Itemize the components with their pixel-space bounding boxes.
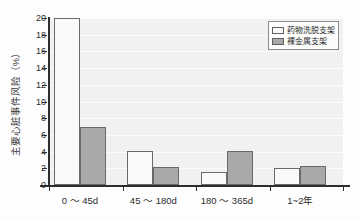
bar-chart-figure: 主要心脏事件风险（%） 02468101214161820 0 ～ 45d45 … bbox=[0, 0, 361, 219]
legend-swatch-icon-series-1 bbox=[272, 27, 284, 34]
legend-item-drug-eluting-stent: 药物洗脱支架 bbox=[272, 25, 335, 35]
legend-label-series-2: 裸金属支架 bbox=[287, 37, 327, 46]
bar-series-2 bbox=[300, 166, 326, 185]
x-category-label: 45 ～ 180d bbox=[113, 193, 193, 207]
bar-series-2 bbox=[153, 167, 179, 185]
bar-series-1 bbox=[274, 168, 300, 185]
legend-swatch-icon-series-2 bbox=[272, 38, 284, 45]
y-tick-label: 0 bbox=[16, 180, 46, 190]
x-tick-mark bbox=[196, 186, 197, 191]
bar-series-2 bbox=[80, 127, 106, 185]
y-tick-label: 20 bbox=[16, 13, 46, 23]
y-tick-label: 4 bbox=[16, 147, 46, 157]
y-tick-label: 14 bbox=[16, 63, 46, 73]
x-tick-mark bbox=[123, 186, 124, 191]
legend-item-bare-metal-stent: 裸金属支架 bbox=[272, 36, 335, 46]
x-axis-line bbox=[40, 185, 350, 187]
legend-label-series-1: 药物洗脱支架 bbox=[287, 26, 335, 35]
x-tick-mark bbox=[49, 186, 50, 191]
chart-legend: 药物洗脱支架 裸金属支架 bbox=[268, 21, 339, 50]
x-category-label: 0 ～ 45d bbox=[40, 193, 120, 207]
y-tick-label: 10 bbox=[16, 97, 46, 107]
y-tick-label: 8 bbox=[16, 113, 46, 123]
y-tick-label: 6 bbox=[16, 130, 46, 140]
x-tick-mark bbox=[270, 186, 271, 191]
bar-series-2 bbox=[227, 151, 253, 185]
bar-series-1 bbox=[201, 172, 227, 185]
x-category-label: 180 ～ 365d bbox=[187, 193, 267, 207]
y-tick-labels-group: 02468101214161820 bbox=[10, 0, 46, 219]
y-tick-label: 12 bbox=[16, 80, 46, 90]
y-tick-label: 18 bbox=[16, 30, 46, 40]
x-tick-mark bbox=[343, 186, 344, 191]
bar-series-1 bbox=[127, 151, 153, 185]
y-tick-label: 2 bbox=[16, 163, 46, 173]
y-tick-label: 16 bbox=[16, 46, 46, 56]
x-category-label: 1~2年 bbox=[260, 193, 340, 207]
